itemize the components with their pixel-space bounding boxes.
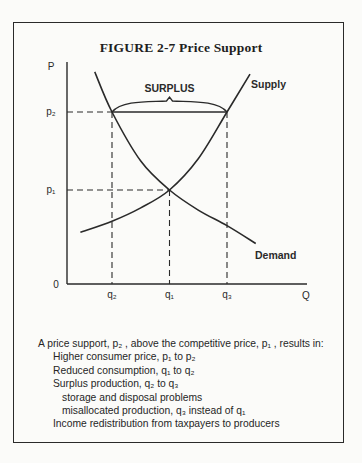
notes-item: Higher consumer price, p₁ to p₂ — [38, 350, 324, 363]
y-tick-label: p₂ — [46, 106, 56, 117]
notes-subitem: storage and disposal problems — [38, 391, 324, 404]
notes-item: Surplus production, q₂ to q₃ — [38, 377, 324, 390]
y-tick-label: p₁ — [47, 184, 57, 195]
series-label: Demand — [255, 249, 296, 261]
explanation-notes: A price support, p₂ , above the competit… — [38, 337, 324, 431]
notes-intro: A price support, p₂ , above the competit… — [38, 337, 324, 350]
surplus-brace — [112, 97, 227, 112]
x-axis-label: Q — [302, 290, 310, 301]
x-tick-label: q₁ — [165, 289, 175, 300]
x-tick-label: q₃ — [222, 289, 232, 300]
surplus-label: SURPLUS — [144, 82, 194, 94]
y-axis-label: P — [48, 61, 55, 72]
x-tick-label: q₂ — [107, 289, 117, 300]
notes-subitem: misallocated production, q₃ instead of q… — [38, 404, 324, 417]
series-label: Supply — [251, 78, 286, 90]
origin-label: 0 — [53, 279, 59, 290]
notes-item: Income redistribution from taxpayers to … — [38, 417, 324, 430]
notes-item: Reduced consumption, q₁ to q₂ — [38, 364, 324, 377]
